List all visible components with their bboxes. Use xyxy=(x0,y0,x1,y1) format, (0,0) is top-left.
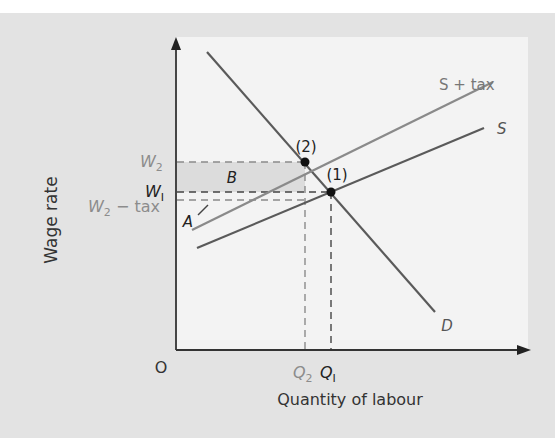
supply-curve-label: S xyxy=(497,120,507,138)
x-axis-label: Quantity of labour xyxy=(277,390,423,409)
w2-tick-label: W2 xyxy=(140,152,163,174)
area-b-label: B xyxy=(227,169,237,187)
demand-curve-label: D xyxy=(441,317,453,335)
point-2-label: (2) xyxy=(295,138,316,156)
supply-plus-tax-curve-label: S + tax xyxy=(439,76,495,94)
point-1-label: (1) xyxy=(326,166,347,184)
w2-minus-tax-tick-label: W2 − tax xyxy=(88,197,160,219)
labour-tax-chart: Wage rate Quantity of labour O W2 WI W2 … xyxy=(0,0,555,438)
equilibrium-point-1 xyxy=(327,188,336,197)
area-a-label: A xyxy=(182,213,193,231)
area-b-shading xyxy=(177,162,305,192)
equilibrium-point-2 xyxy=(301,158,310,167)
origin-label: O xyxy=(155,358,168,377)
y-axis-label: Wage rate xyxy=(41,176,61,263)
q1-tick-label: QI xyxy=(320,363,336,385)
q2-tick-label: Q2 xyxy=(293,363,313,385)
